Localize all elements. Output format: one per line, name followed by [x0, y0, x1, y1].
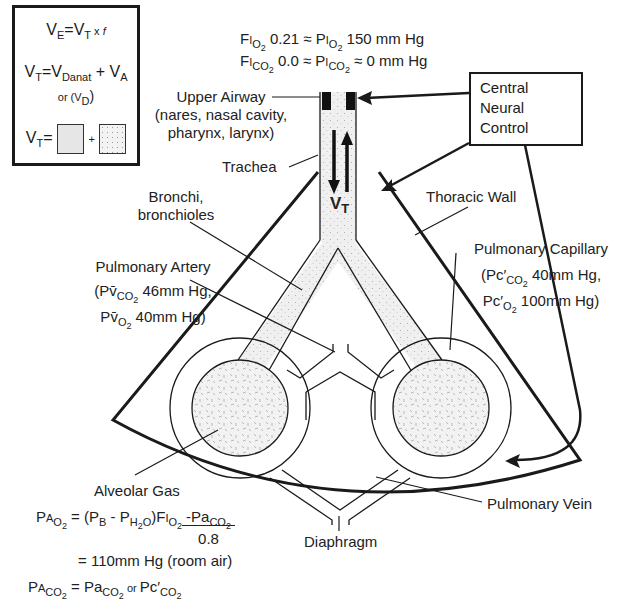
pulmonary-vein-label: Pulmonary Vein [487, 495, 592, 513]
upper-airway-label: Upper Airway (nares, nasal cavity, phary… [146, 88, 296, 142]
central-neural-control-box: Central Neural Control [469, 72, 583, 146]
tidal-volume-squares: VT= + [15, 124, 137, 154]
alveolar-o2-result: = 110mm Hg (room air) [78, 552, 232, 570]
diaphragm-label: Diaphragm [304, 533, 377, 551]
thoracic-wall-label: Thoracic Wall [426, 188, 516, 206]
alveolar-co2-equation: PACO2 = PaCO2 or Pc′CO2 [28, 578, 182, 597]
tidal-volume-label: VT [330, 195, 349, 213]
pulmonary-vein-vessels [270, 470, 410, 525]
cnc-line-3: Control [471, 118, 581, 138]
inspired-o2-label: FIO2 0.21 ≈ PIO2 150 mm Hg [240, 30, 424, 49]
pulmonary-capillary-label: Pulmonary Capillary (Pc′CO2 40mm Hg, Pc′… [466, 240, 616, 310]
dead-space-alt: or (VD) [15, 88, 137, 104]
bronchi-label: Bronchi, bronchioles [136, 188, 216, 224]
dead-space-square [57, 124, 84, 154]
pulmonary-artery-label: Pulmonary Artery (Pv̄CO2 46mm Hg, Pv̄O2 … [68, 258, 238, 326]
cnc-line-2: Neural [471, 98, 581, 118]
ventilation-formula-box: VE=VT x f VT=VDanat + VA or (VD) VT= + [12, 5, 140, 166]
upper-airway-marker-right [346, 92, 355, 110]
pulmonary-artery-vessels [287, 344, 394, 420]
trachea-label: Trachea [222, 158, 276, 176]
alveolar-gas-label: Alveolar Gas [94, 482, 180, 500]
alveolar-o2-equation: PAO2 = (PB - PH2O)FIO2-PaCO20.8 [36, 508, 235, 548]
tidal-volume-equation: VT=VDanat + VA [15, 63, 137, 81]
alveolar-volume-square [99, 124, 126, 154]
fraction: -PaCO20.8 [182, 508, 235, 548]
inspired-co2-label: FICO2 0.0 ≈ PICO2 ≈ 0 mm Hg [240, 52, 427, 71]
upper-airway-marker-left [322, 92, 331, 110]
minute-ventilation-equation: VE=VT x f [15, 21, 137, 39]
cnc-line-1: Central [471, 78, 581, 98]
